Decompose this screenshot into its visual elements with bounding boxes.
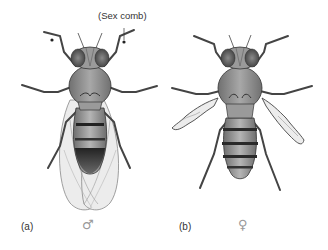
male-sex-comb-right	[122, 40, 125, 43]
drosophila-sex-comparison-figure: (Sex comb) (a) ♂ (b) ♀	[0, 0, 328, 250]
female-thorax	[218, 67, 262, 118]
female-head	[221, 35, 259, 69]
panel-label-a: (a)	[21, 221, 33, 232]
figure-illustration	[0, 0, 328, 250]
male-fly-illustration	[22, 28, 157, 210]
sex-comb-annotation: (Sex comb)	[98, 10, 147, 21]
female-symbol-icon: ♀	[238, 217, 248, 232]
female-fly-illustration	[172, 35, 312, 190]
male-abdomen	[73, 108, 106, 174]
male-symbol-icon: ♂	[82, 217, 94, 232]
male-head	[71, 33, 109, 69]
female-abdomen	[222, 118, 258, 179]
panel-label-b: (b)	[179, 221, 191, 232]
male-sex-comb-left	[50, 38, 53, 41]
